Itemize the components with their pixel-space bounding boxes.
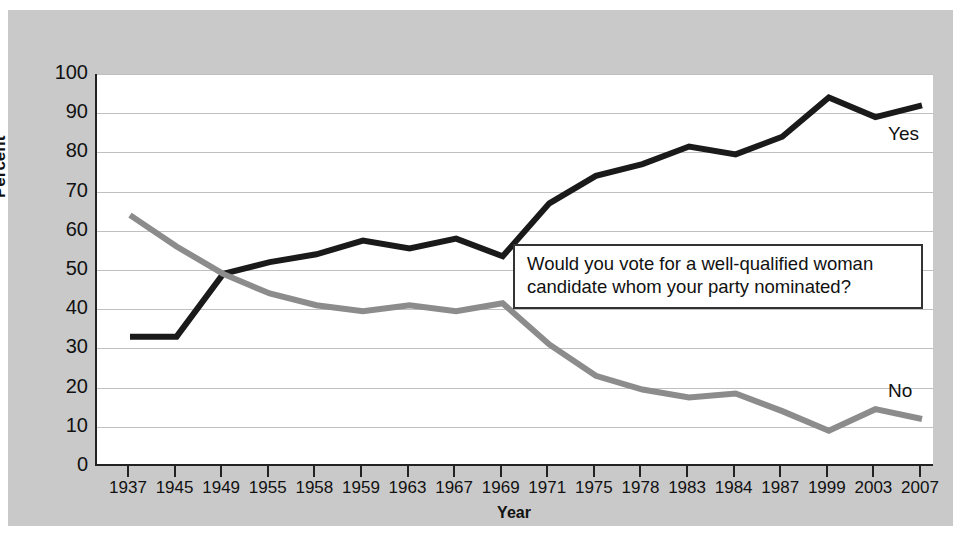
y-axis-tick-labels: 0102030405060708090100 (28, 74, 88, 466)
series-label-yes: Yes (888, 123, 919, 145)
y-axis-tick-label: 30 (44, 335, 88, 358)
y-axis-tick-label: 40 (44, 296, 88, 319)
x-axis-tick (360, 466, 362, 477)
y-axis-tick-label: 20 (44, 375, 88, 398)
y-axis-tick-label: 70 (44, 179, 88, 202)
x-axis-ticks (95, 466, 933, 478)
x-axis-tick (593, 466, 595, 477)
x-axis-tick (267, 466, 269, 477)
x-axis-tick (174, 466, 176, 477)
y-axis-tick-label: 0 (44, 453, 88, 476)
y-axis-tick-label: 100 (44, 61, 88, 84)
x-axis-tick (639, 466, 641, 477)
y-axis-tick-label: 10 (44, 414, 88, 437)
x-axis-tick (919, 466, 921, 477)
x-axis-tick (453, 466, 455, 477)
x-axis-title: Year (95, 504, 933, 522)
chart-page: 0102030405060708090100 Percent 193719451… (0, 0, 961, 534)
x-axis-tick-labels: 1937194519491955195819591963196719691971… (95, 478, 933, 504)
question-callout-box: Would you vote for a well-qualified woma… (513, 244, 923, 309)
x-axis-tick (407, 466, 409, 477)
x-axis-tick (220, 466, 222, 477)
x-axis-tick (546, 466, 548, 477)
x-axis-tick-label: 2007 (890, 478, 950, 498)
y-axis-tick-label: 50 (44, 257, 88, 280)
x-axis-tick (686, 466, 688, 477)
x-axis-tick (500, 466, 502, 477)
x-axis-tick (733, 466, 735, 477)
x-axis-tick (313, 466, 315, 477)
y-axis-title: Percent (0, 136, 10, 198)
x-axis-tick (872, 466, 874, 477)
figure-panel: 0102030405060708090100 Percent 193719451… (8, 10, 953, 526)
x-axis-tick (826, 466, 828, 477)
x-axis-tick (127, 466, 129, 477)
y-axis-tick-label: 90 (44, 100, 88, 123)
x-axis-tick (779, 466, 781, 477)
y-axis-tick-label: 80 (44, 139, 88, 162)
series-label-no: No (888, 380, 912, 402)
y-axis-tick-label: 60 (44, 218, 88, 241)
